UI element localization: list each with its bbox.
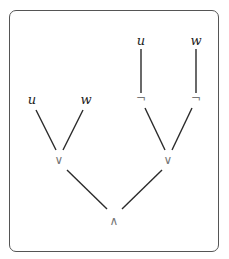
edge-not1-or2 [145,108,165,150]
edge-not2-or2 [172,108,192,150]
node-or-left: ∨ [55,153,64,167]
edge-or2-and [122,170,162,209]
edge-u1-or1 [36,110,56,150]
node-w-right: w [190,33,201,48]
formula-tree: u w ∨ u w ¬ ¬ ∨ ∧ [0,0,229,259]
edge-or1-and [67,170,107,209]
node-or-right: ∨ [164,153,173,167]
edge-w1-or1 [63,110,83,150]
node-u-left: u [28,92,36,107]
node-w-left: w [80,92,91,107]
node-u-right: u [137,33,145,48]
node-not-left: ¬ [136,91,146,105]
node-not-right: ¬ [191,91,201,105]
node-and-root: ∧ [110,214,119,228]
